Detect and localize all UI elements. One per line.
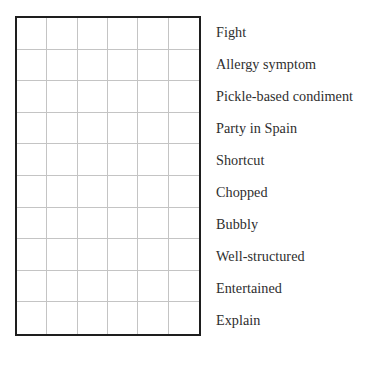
- grid-cell[interactable]: [169, 239, 199, 271]
- grid-cell[interactable]: [108, 144, 138, 176]
- grid-cell[interactable]: [78, 144, 108, 176]
- grid-cell[interactable]: [169, 271, 199, 303]
- grid-cell[interactable]: [108, 113, 138, 145]
- grid-cell[interactable]: [108, 302, 138, 334]
- grid-cell[interactable]: [169, 81, 199, 113]
- grid-cell[interactable]: [138, 302, 168, 334]
- grid-cell[interactable]: [78, 239, 108, 271]
- clue-4: Party in Spain: [216, 112, 376, 144]
- clue-9: Entertained: [216, 272, 376, 304]
- grid-cell[interactable]: [138, 81, 168, 113]
- grid-cell[interactable]: [78, 271, 108, 303]
- clue-5: Shortcut: [216, 144, 376, 176]
- puzzle-grid: [15, 16, 201, 336]
- grid-cell[interactable]: [108, 18, 138, 50]
- grid-cell[interactable]: [108, 81, 138, 113]
- grid-cell[interactable]: [17, 113, 47, 145]
- grid-cell[interactable]: [47, 239, 77, 271]
- grid-cell[interactable]: [17, 18, 47, 50]
- grid-cell[interactable]: [17, 271, 47, 303]
- grid-cell[interactable]: [47, 113, 77, 145]
- clue-3: Pickle-based condiment: [216, 80, 376, 112]
- grid-cell[interactable]: [78, 176, 108, 208]
- grid-cell[interactable]: [138, 144, 168, 176]
- grid-cell[interactable]: [17, 208, 47, 240]
- grid-cell[interactable]: [78, 50, 108, 82]
- grid-cell[interactable]: [138, 208, 168, 240]
- grid-cell[interactable]: [78, 208, 108, 240]
- grid-cell[interactable]: [169, 113, 199, 145]
- grid-cell[interactable]: [169, 18, 199, 50]
- grid-cell[interactable]: [47, 302, 77, 334]
- grid-cell[interactable]: [138, 113, 168, 145]
- grid-cell[interactable]: [47, 271, 77, 303]
- grid-cell[interactable]: [17, 50, 47, 82]
- grid-cell[interactable]: [138, 176, 168, 208]
- grid-cell[interactable]: [47, 50, 77, 82]
- grid-cell[interactable]: [108, 176, 138, 208]
- grid-cell[interactable]: [108, 50, 138, 82]
- grid-cell[interactable]: [17, 81, 47, 113]
- clue-10: Explain: [216, 304, 376, 336]
- grid-cell[interactable]: [78, 302, 108, 334]
- grid-cell[interactable]: [17, 144, 47, 176]
- grid-cell[interactable]: [78, 81, 108, 113]
- grid-cell[interactable]: [169, 144, 199, 176]
- clue-8: Well-structured: [216, 240, 376, 272]
- clue-7: Bubbly: [216, 208, 376, 240]
- grid-cell[interactable]: [138, 50, 168, 82]
- clue-6: Chopped: [216, 176, 376, 208]
- grid-cell[interactable]: [169, 176, 199, 208]
- grid-cell[interactable]: [138, 18, 168, 50]
- grid-cell[interactable]: [169, 50, 199, 82]
- grid-cell[interactable]: [169, 208, 199, 240]
- grid-cell[interactable]: [138, 271, 168, 303]
- grid-cell[interactable]: [138, 239, 168, 271]
- grid-cell[interactable]: [108, 239, 138, 271]
- grid-cell[interactable]: [47, 208, 77, 240]
- grid-cell[interactable]: [47, 176, 77, 208]
- grid-cell[interactable]: [78, 18, 108, 50]
- clue-list: Fight Allergy symptom Pickle-based condi…: [216, 16, 376, 336]
- grid-cell[interactable]: [47, 144, 77, 176]
- grid-cell[interactable]: [108, 271, 138, 303]
- grid-cell[interactable]: [17, 239, 47, 271]
- grid-cell[interactable]: [17, 176, 47, 208]
- grid-cell[interactable]: [47, 18, 77, 50]
- grid-cell[interactable]: [47, 81, 77, 113]
- grid-cell[interactable]: [169, 302, 199, 334]
- grid-cell[interactable]: [108, 208, 138, 240]
- clue-2: Allergy symptom: [216, 48, 376, 80]
- grid-cell[interactable]: [17, 302, 47, 334]
- grid-cell[interactable]: [78, 113, 108, 145]
- clue-1: Fight: [216, 16, 376, 48]
